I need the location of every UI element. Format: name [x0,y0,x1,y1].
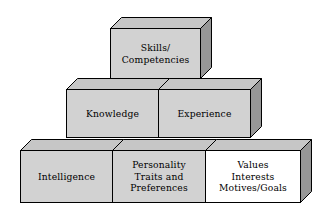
cube-front-face [159,90,251,138]
cube-shape-intelligence [20,139,125,204]
cube-side-face [301,140,312,203]
cube-front-face [21,151,113,203]
cube-top-face [21,140,124,151]
cube-experience: Experience [158,78,263,139]
cube-top-face [67,79,170,90]
cube-top-face [206,140,312,151]
cube-top-face [159,79,262,90]
cube-knowledge: Knowledge [66,78,171,139]
cube-shape-experience [158,78,263,139]
cube-top-face [111,18,212,29]
cube-shape-knowledge [66,78,171,139]
cube-front-face [111,29,201,79]
cube-shape-skills-competencies [110,17,213,80]
cube-front-face [67,90,159,138]
cube-front-face [206,151,301,203]
cube-values-interests-motives-goals: ValuesInterestsMotives/Goals [205,139,313,204]
cube-side-face [251,79,262,138]
cube-side-face [201,18,212,79]
cube-intelligence: Intelligence [20,139,125,204]
competency-pyramid-diagram: Skills/CompetenciesKnowledgeExperienceIn… [0,0,326,214]
cube-front-face [113,151,206,203]
cube-shape-personality-traits-preferences [112,139,218,204]
cube-top-face [113,140,217,151]
cube-shape-values-interests-motives-goals [205,139,313,204]
cube-skills-competencies: Skills/Competencies [110,17,213,80]
cube-personality-traits-preferences: PersonalityTraits andPreferences [112,139,218,204]
